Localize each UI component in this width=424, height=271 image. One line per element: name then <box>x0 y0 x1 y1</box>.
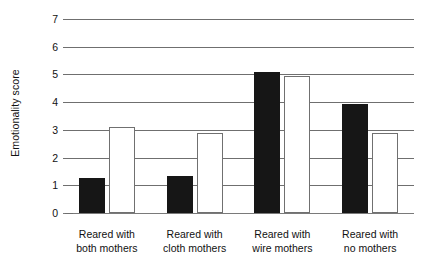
y-tick-label-5: 5 <box>38 68 58 80</box>
bar-group1-black-bar <box>167 176 193 213</box>
x-group-label-1: Reared with cloth mothers <box>151 228 239 255</box>
bar-group0-white-bar <box>109 127 135 213</box>
x-group-label-2-line1: Reared with <box>239 228 327 242</box>
y-axis-title-text: Emotionality score <box>9 69 21 157</box>
y-tick-label-2: 2 <box>38 152 58 164</box>
x-group-label-3-line1: Reared with <box>326 228 414 242</box>
x-group-label-2: Reared with wire mothers <box>239 228 327 255</box>
x-group-label-2-line2: wire mothers <box>239 242 327 256</box>
y-tick-label-6: 6 <box>38 41 58 53</box>
y-axis-title: Emotionality score <box>0 0 30 225</box>
gridline-7 <box>63 19 414 20</box>
x-group-label-3: Reared with no mothers <box>326 228 414 255</box>
bar-group2-white-bar <box>284 76 310 213</box>
y-tick-label-7: 7 <box>38 13 58 25</box>
y-tick-mark-0 <box>65 213 73 214</box>
bar-group1-white-bar <box>197 133 223 213</box>
y-tick-mark-4 <box>65 102 73 103</box>
y-tick-label-0: 0 <box>38 207 58 219</box>
bar-group3-black-bar <box>342 104 368 213</box>
y-tick-mark-5 <box>65 74 73 75</box>
y-tick-mark-2 <box>65 158 73 159</box>
y-tick-mark-6 <box>65 47 73 48</box>
gridline-6 <box>63 47 414 48</box>
x-group-label-1-line2: cloth mothers <box>151 242 239 256</box>
gridline-5 <box>63 74 414 75</box>
y-tick-mark-3 <box>65 130 73 131</box>
y-tick-label-3: 3 <box>38 124 58 136</box>
y-tick-mark-7 <box>65 19 73 20</box>
x-group-label-0-line2: both mothers <box>63 242 151 256</box>
y-tick-mark-1 <box>65 185 73 186</box>
x-group-label-1-line1: Reared with <box>151 228 239 242</box>
x-group-label-3-line2: no mothers <box>326 242 414 256</box>
y-tick-label-1: 1 <box>38 179 58 191</box>
y-tick-label-4: 4 <box>38 96 58 108</box>
plot-area <box>63 19 414 213</box>
x-group-label-0-line1: Reared with <box>63 228 151 242</box>
bar-group3-white-bar <box>372 133 398 213</box>
emotionality-score-bar-chart: Emotionality score Reared with both moth… <box>0 0 424 271</box>
gridline-0 <box>63 213 414 214</box>
bar-group0-black-bar <box>79 178 105 213</box>
bar-group2-black-bar <box>254 72 280 213</box>
x-group-label-0: Reared with both mothers <box>63 228 151 255</box>
x-axis-label-group: Reared with both mothers Reared with clo… <box>63 228 414 268</box>
